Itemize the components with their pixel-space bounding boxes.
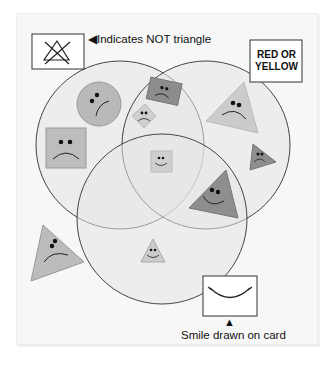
left-pointer-icon: ◀ — [88, 33, 97, 45]
not-triangle-legend-text: Indicates NOT triangle — [97, 33, 211, 45]
red-or-yellow-line2: YELLOW — [250, 61, 303, 73]
up-pointer-icon: ▲ — [224, 316, 235, 328]
not-triangle-legend-label: ◀Indicates NOT triangle — [88, 32, 211, 46]
not-triangle-legend-box — [32, 34, 84, 69]
shape-circle-frown — [77, 82, 121, 126]
shape-triangle-frown-outside — [31, 225, 84, 281]
red-or-yellow-legend-label: RED OR YELLOW — [250, 49, 303, 73]
red-or-yellow-line1: RED OR — [250, 49, 303, 61]
shape-square-frown — [46, 128, 86, 168]
smile-legend-label: Smile drawn on card — [181, 329, 286, 341]
shape-square-smile — [151, 151, 172, 172]
venn-diagram-figure: ◀Indicates NOT triangle RED OR YELLOW ▲ … — [0, 0, 329, 365]
smile-legend-box — [203, 276, 257, 316]
